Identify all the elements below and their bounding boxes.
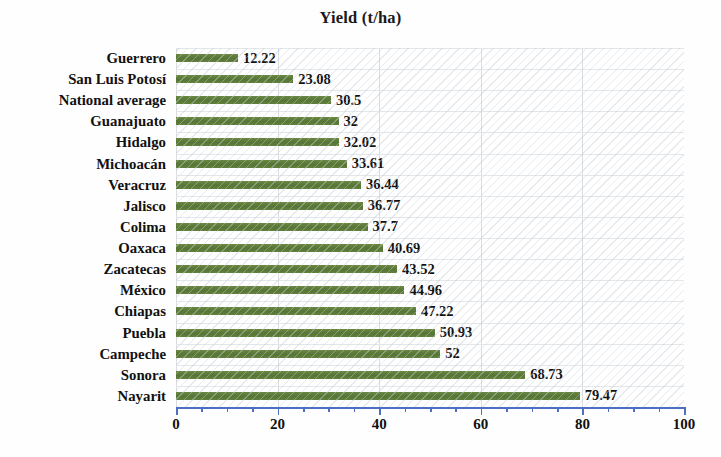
chart-title: Yield (t/ha) (0, 8, 721, 28)
category-label: National average (59, 90, 166, 111)
bar[interactable] (176, 96, 331, 104)
bar-row[interactable]: 43.52 (176, 259, 684, 280)
bar-row[interactable]: 23.08 (176, 69, 684, 90)
bar-value-label: 33.61 (352, 155, 385, 172)
x-axis-minor-tick (659, 407, 661, 412)
x-axis-minor-tick (532, 407, 534, 412)
bar-row[interactable]: 32 (176, 111, 684, 132)
bar-row[interactable]: 68.73 (176, 365, 684, 386)
x-axis-minor-tick (455, 407, 457, 412)
bar-row[interactable]: 40.69 (176, 238, 684, 259)
bar-value-label: 50.93 (440, 324, 473, 341)
bar-value-label: 37.7 (373, 218, 398, 235)
x-axis-minor-tick (405, 407, 407, 412)
x-axis-tick-label: 20 (270, 416, 285, 433)
bar-value-label: 68.73 (530, 366, 563, 383)
x-axis-tick-label: 100 (673, 416, 696, 433)
category-label: Sonora (121, 365, 166, 386)
category-label: Michoacán (96, 154, 166, 175)
bar-value-label: 30.5 (336, 92, 361, 109)
bar[interactable] (176, 286, 404, 294)
category-label: Hidalgo (116, 132, 166, 153)
category-label: Zacatecas (104, 259, 166, 280)
x-axis-minor-tick (201, 407, 203, 412)
x-axis-minor-tick (506, 407, 508, 412)
category-label: Jalisco (123, 196, 166, 217)
x-axis-tick-label: 80 (575, 416, 590, 433)
x-axis-tick-label: 60 (473, 416, 488, 433)
bar-row[interactable]: 36.44 (176, 175, 684, 196)
category-label: Campeche (99, 344, 166, 365)
x-axis-tick-label: 40 (372, 416, 387, 433)
x-axis-tick-label: 0 (172, 416, 180, 433)
bar-value-label: 32.02 (344, 134, 377, 151)
bar[interactable] (176, 223, 368, 231)
bar-row[interactable]: 30.5 (176, 90, 684, 111)
bar-value-label: 23.08 (298, 71, 331, 88)
bar-value-label: 12.22 (243, 50, 276, 67)
bar-value-label: 52 (445, 345, 460, 362)
bar-value-label: 36.77 (368, 197, 401, 214)
bar[interactable] (176, 202, 363, 210)
x-axis-minor-tick (227, 407, 229, 412)
x-axis-major-tick (582, 407, 584, 415)
category-label: Colima (120, 217, 166, 238)
bar-value-label: 79.47 (585, 387, 618, 404)
category-label: Veracruz (108, 175, 166, 196)
bar-row[interactable]: 32.02 (176, 132, 684, 153)
bar[interactable] (176, 371, 525, 379)
bar[interactable] (176, 329, 435, 337)
x-axis-minor-tick (633, 407, 635, 412)
bar-row[interactable]: 50.93 (176, 323, 684, 344)
x-axis-minor-tick (303, 407, 305, 412)
x-axis-minor-tick (328, 407, 330, 412)
x-axis-major-tick (278, 407, 280, 415)
bar[interactable] (176, 54, 238, 62)
plot-area: 12.2223.0830.53232.0233.6136.4436.7737.7… (176, 48, 684, 407)
bar-row[interactable]: 79.47 (176, 386, 684, 407)
x-axis-major-tick (379, 407, 381, 415)
bar-row[interactable]: 52 (176, 344, 684, 365)
bar[interactable] (176, 160, 347, 168)
bar-row[interactable]: 12.22 (176, 48, 684, 69)
x-axis-major-tick (481, 407, 483, 415)
bar[interactable] (176, 244, 383, 252)
x-axis-minor-tick (430, 407, 432, 412)
bar-value-label: 43.52 (402, 261, 435, 278)
bar-value-label: 40.69 (388, 240, 421, 257)
bar-value-label: 32 (344, 113, 359, 130)
bar[interactable] (176, 392, 580, 400)
bar[interactable] (176, 350, 440, 358)
category-label: Oaxaca (118, 238, 166, 259)
category-axis-labels: GuerreroSan Luis PotosíNational averageG… (0, 48, 172, 407)
category-label: Nayarit (118, 386, 167, 407)
x-axis-major-tick (684, 407, 686, 415)
bar-row[interactable]: 44.96 (176, 280, 684, 301)
bar[interactable] (176, 117, 339, 125)
category-label: Guerrero (107, 48, 166, 69)
bar-row[interactable]: 37.7 (176, 217, 684, 238)
bar-value-label: 44.96 (409, 282, 442, 299)
x-axis-minor-tick (354, 407, 356, 412)
category-label: México (120, 280, 166, 301)
bar-value-label: 36.44 (366, 176, 399, 193)
bar[interactable] (176, 265, 397, 273)
bar-row[interactable]: 36.77 (176, 196, 684, 217)
x-axis-minor-tick (252, 407, 254, 412)
category-label: Puebla (122, 323, 166, 344)
bar-row[interactable]: 33.61 (176, 154, 684, 175)
x-axis-major-tick (176, 407, 178, 415)
x-axis-minor-tick (608, 407, 610, 412)
bar[interactable] (176, 307, 416, 315)
category-label: San Luis Potosí (68, 69, 166, 90)
bar[interactable] (176, 75, 293, 83)
bar-row[interactable]: 47.22 (176, 301, 684, 322)
bar[interactable] (176, 138, 339, 146)
x-axis-minor-tick (557, 407, 559, 412)
category-label: Guanajuato (90, 111, 166, 132)
bar[interactable] (176, 181, 361, 189)
chart-container: Yield (t/ha) GuerreroSan Luis PotosíNati… (0, 0, 721, 457)
bar-value-label: 47.22 (421, 303, 454, 320)
category-label: Chiapas (114, 301, 166, 322)
